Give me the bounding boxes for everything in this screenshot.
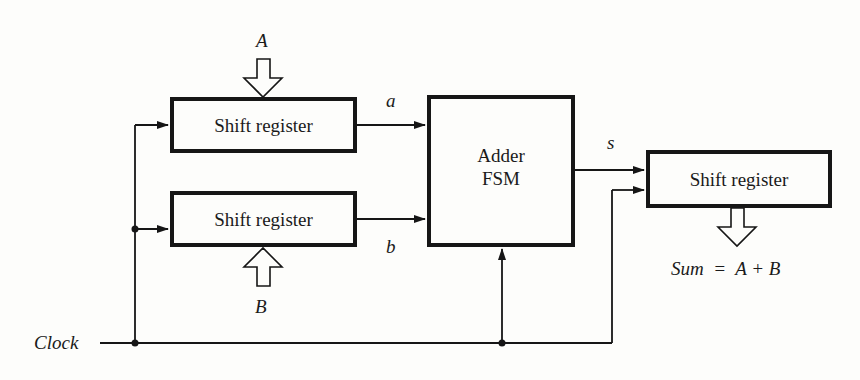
shift-register-a-label: Shift register	[214, 114, 313, 137]
junction-dot	[132, 226, 139, 233]
junction-dot	[499, 340, 506, 347]
adder-fsm: Adder FSM	[427, 95, 575, 247]
bus-arrow-A-icon	[244, 59, 282, 97]
sum-output-label: Sum = A + B	[671, 258, 780, 280]
clock-label: Clock	[34, 332, 78, 354]
shift-register-sum: Shift register	[646, 150, 832, 208]
bus-arrow-sum-icon	[718, 208, 756, 246]
junction-dot	[132, 340, 139, 347]
shift-register-sum-label: Shift register	[690, 168, 789, 191]
signal-a-label: a	[386, 90, 396, 112]
input-B-label: B	[255, 296, 267, 318]
adder-fsm-label-line1: Adder	[477, 144, 524, 167]
adder-fsm-label-line2: FSM	[482, 167, 520, 190]
shift-register-b: Shift register	[170, 191, 357, 247]
input-A-label: A	[256, 30, 268, 52]
signal-b-label: b	[386, 236, 396, 258]
bus-arrow-B-icon	[244, 248, 282, 286]
shift-register-b-label: Shift register	[214, 208, 313, 231]
signal-s-label: s	[607, 132, 614, 154]
shift-register-a: Shift register	[170, 97, 357, 153]
